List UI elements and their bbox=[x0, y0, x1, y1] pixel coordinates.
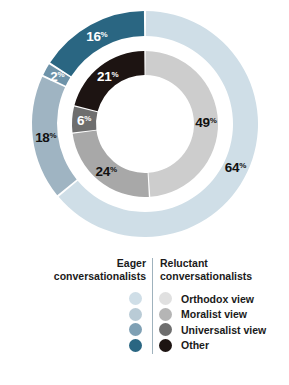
donut-chart: 64%18%2%16%49%24%6%21% bbox=[0, 0, 289, 248]
legend-heading-reluctant-line1: Reluctant bbox=[160, 257, 285, 270]
legend-swatch-icon bbox=[159, 292, 172, 305]
legend-item[interactable]: Other bbox=[159, 338, 266, 354]
legend-item[interactable]: Moralist view bbox=[159, 307, 266, 323]
donut-segment bbox=[73, 131, 149, 197]
legend-swatch-icon bbox=[129, 339, 142, 352]
legend-swatch-icon bbox=[129, 308, 142, 321]
chart-legend: Eager conversationalists Reluctant conve… bbox=[0, 250, 289, 385]
legend-swatch-icon bbox=[129, 323, 142, 336]
ring-outer-eager-conversationalists bbox=[32, 11, 258, 237]
legend-heading-reluctant: Reluctant conversationalists bbox=[160, 257, 285, 282]
legend-swatch-icon bbox=[159, 323, 172, 336]
legend-swatches-eager bbox=[129, 291, 142, 353]
legend-item-label: Other bbox=[181, 339, 209, 351]
legend-item[interactable]: Universalist view bbox=[159, 322, 266, 338]
legend-item[interactable]: Orthodox view bbox=[159, 291, 266, 307]
legend-heading-reluctant-line2: conversationalists bbox=[160, 270, 285, 283]
legend-divider bbox=[152, 258, 153, 354]
donut-chart-svg: 64%18%2%16%49%24%6%21% bbox=[0, 0, 289, 248]
legend-item-label: Orthodox view bbox=[181, 293, 254, 305]
legend-swatch-icon bbox=[129, 292, 142, 305]
legend-item[interactable] bbox=[129, 307, 142, 323]
legend-item[interactable] bbox=[129, 291, 142, 307]
legend-item-label: Universalist view bbox=[181, 324, 266, 336]
legend-item[interactable] bbox=[129, 338, 142, 354]
legend-item[interactable] bbox=[129, 322, 142, 338]
legend-heading-eager-line1: Eager bbox=[20, 257, 146, 270]
legend-heading-eager-line2: conversationalists bbox=[20, 270, 146, 283]
legend-swatches-reluctant: Orthodox viewMoralist viewUniversalist v… bbox=[159, 291, 266, 353]
legend-item-label: Moralist view bbox=[181, 308, 247, 320]
legend-swatch-icon bbox=[159, 308, 172, 321]
legend-swatch-icon bbox=[159, 339, 172, 352]
legend-heading-eager: Eager conversationalists bbox=[20, 257, 146, 282]
